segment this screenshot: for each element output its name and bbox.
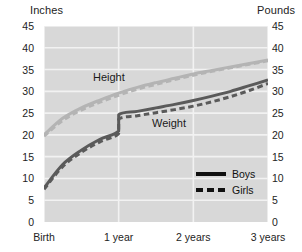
legend-swatch-solid [196, 166, 226, 182]
annotation-weight: Weight [152, 117, 186, 129]
left-tick-25: 25 [22, 108, 34, 119]
left-tick-15: 15 [22, 152, 34, 163]
x-tick-3: 3 years [238, 232, 298, 243]
right-tick-20: 20 [272, 130, 284, 141]
growth-chart: Inches Pounds 454035302520151050 4540353… [0, 0, 302, 252]
right-tick-25: 25 [272, 108, 284, 119]
legend-label-girls: Girls [232, 184, 254, 196]
right-tick-45: 45 [272, 21, 284, 32]
right-tick-30: 30 [272, 86, 284, 97]
right-tick-0: 0 [272, 217, 278, 228]
left-tick-35: 35 [22, 65, 34, 76]
legend-item-boys: Boys [196, 166, 274, 182]
annotation-height: Height [93, 71, 125, 83]
left-tick-0: 0 [28, 217, 34, 228]
right-tick-15: 15 [272, 152, 284, 163]
right-axis-title: Pounds [257, 4, 295, 16]
legend-label-boys: Boys [232, 168, 255, 180]
left-tick-20: 20 [22, 130, 34, 141]
legend: Boys Girls [196, 166, 274, 198]
legend-item-girls: Girls [196, 182, 274, 198]
x-tick-0: Birth [14, 232, 74, 243]
left-tick-45: 45 [22, 21, 34, 32]
right-tick-40: 40 [272, 43, 284, 54]
left-tick-10: 10 [22, 173, 34, 184]
left-tick-40: 40 [22, 43, 34, 54]
left-axis-title: Inches [30, 4, 63, 16]
x-tick-2: 2 years [163, 232, 223, 243]
x-tick-1: 1 year [89, 232, 149, 243]
left-tick-30: 30 [22, 86, 34, 97]
right-tick-35: 35 [272, 65, 284, 76]
left-tick-5: 5 [28, 195, 34, 206]
legend-swatch-dashed [196, 182, 226, 198]
